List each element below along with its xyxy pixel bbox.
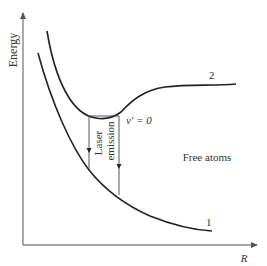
- emission-label: emission: [104, 121, 116, 161]
- vibrational-level-label: v′ = 0: [126, 114, 152, 126]
- emission-arrow-left-icon: [87, 148, 92, 153]
- curve-1-label: 1: [206, 216, 212, 228]
- free-atoms-label: Free atoms: [183, 151, 232, 163]
- x-axis-label: R: [240, 252, 248, 264]
- curve-2-label: 2: [209, 69, 215, 81]
- y-axis-label: Energy: [6, 33, 20, 67]
- curve-2: [47, 31, 236, 119]
- energy-diagram: Energy R 1 2 v′ = 0 Laser emission Free …: [0, 0, 267, 266]
- laser-label: Laser: [92, 130, 104, 155]
- emission-arrow-right-icon: [117, 164, 122, 169]
- curve-1: [38, 53, 212, 231]
